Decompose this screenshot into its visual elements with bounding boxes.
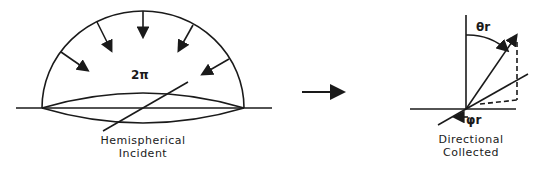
phi-label: φr — [466, 113, 481, 127]
arrow-icon — [97, 22, 111, 50]
dashed-horizontal — [480, 100, 517, 104]
solid-angle-label: 2π — [131, 68, 149, 82]
directional-figure — [410, 15, 528, 125]
theta-label: θr — [476, 20, 490, 34]
theta-arc — [466, 35, 507, 50]
base-ellipse-lower — [42, 108, 244, 123]
base-ellipse-upper — [42, 93, 244, 108]
projection-line — [466, 74, 528, 109]
direction-ray — [466, 36, 516, 109]
arrow-icon — [179, 25, 193, 50]
arrow-icon — [203, 59, 229, 74]
caption-directional: Directional Collected — [426, 133, 516, 159]
caption-hemispherical: Hemispherical Incident — [88, 134, 198, 160]
arrow-icon — [61, 52, 87, 70]
